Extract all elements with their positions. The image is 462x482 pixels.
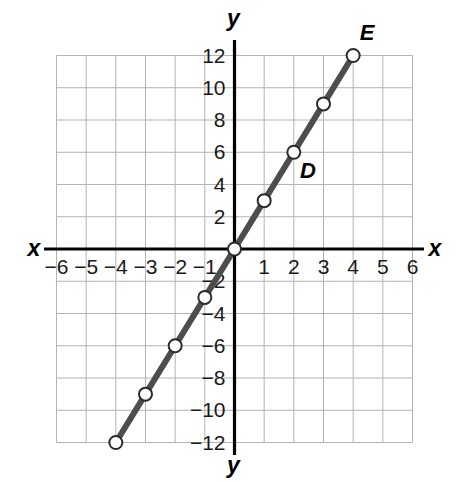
data-point-marker <box>198 291 211 304</box>
data-point-marker <box>258 194 271 207</box>
point-label-d: D <box>300 158 316 183</box>
data-point-marker <box>287 146 300 159</box>
data-point-marker <box>169 339 182 352</box>
y-tick-label: 12 <box>202 44 225 67</box>
x-axis-label-right: x <box>427 235 443 261</box>
y-tick-label: −12 <box>190 431 226 454</box>
y-tick-label: 10 <box>202 76 225 99</box>
y-tick-label: −4 <box>202 302 226 325</box>
y-axis-label-bottom: y <box>226 452 241 478</box>
data-point-marker <box>347 49 360 62</box>
x-tick-label: −3 <box>134 255 158 278</box>
x-tick-label: 3 <box>318 255 330 278</box>
point-label-e: E <box>360 20 376 45</box>
x-tick-label: 5 <box>377 255 389 278</box>
y-tick-label: −10 <box>190 398 226 421</box>
x-tick-label: 2 <box>288 255 300 278</box>
x-axis-label-left: x <box>26 235 42 261</box>
x-tick-label: 4 <box>347 255 359 278</box>
y-tick-label: 2 <box>214 205 226 228</box>
coordinate-plane-svg: −6−5−4−3−2−112345612108642−2−4−6−8−10−12… <box>0 0 462 482</box>
x-tick-label: 1 <box>258 255 270 278</box>
y-tick-label: 6 <box>214 140 226 163</box>
y-tick-label: 4 <box>214 173 226 196</box>
data-point-marker <box>317 97 330 110</box>
x-tick-label: 6 <box>407 255 419 278</box>
y-tick-label: −6 <box>202 334 226 357</box>
data-point-marker <box>228 243 241 256</box>
y-tick-label: 8 <box>214 108 226 131</box>
data-point-marker <box>139 388 152 401</box>
x-tick-label: −4 <box>104 255 128 278</box>
y-axis-label-top: y <box>226 5 241 31</box>
figure-background <box>0 0 462 482</box>
x-tick-label: −5 <box>74 255 98 278</box>
x-tick-label: −2 <box>163 255 187 278</box>
coordinate-plane-figure: −6−5−4−3−2−112345612108642−2−4−6−8−10−12… <box>0 0 462 482</box>
x-tick-label: −6 <box>45 255 69 278</box>
y-tick-label: −8 <box>202 366 226 389</box>
data-point-marker <box>109 436 122 449</box>
